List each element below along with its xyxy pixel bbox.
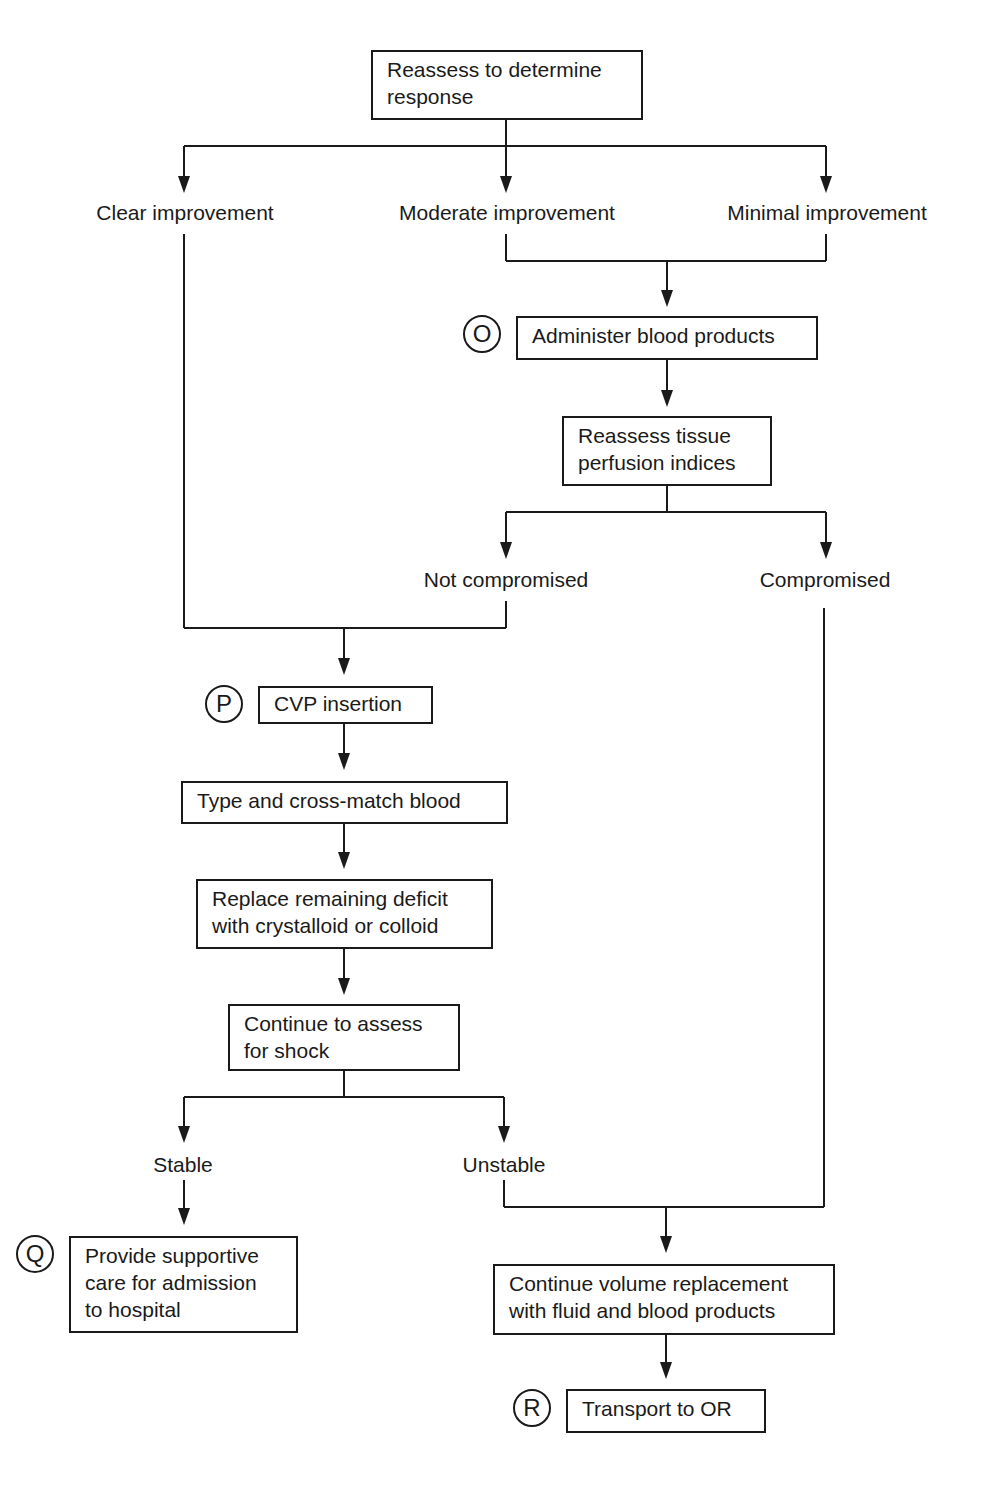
step-marker-r: R (513, 1389, 551, 1427)
node-text-line: Reassess tissue (578, 422, 756, 449)
node-replace-deficit: Replace remaining deficit with crystallo… (196, 879, 493, 949)
node-text: Transport to OR (582, 1395, 750, 1422)
branch-label-compromised: Compromised (760, 567, 891, 593)
node-text-line: to hospital (85, 1296, 282, 1323)
node-text-line: Continue volume replacement (509, 1270, 819, 1297)
branch-label-moderate-improvement: Moderate improvement (399, 200, 615, 226)
node-continue-volume-replacement: Continue volume replacement with fluid a… (493, 1264, 835, 1335)
node-text-line: with fluid and blood products (509, 1297, 819, 1324)
branch-label-unstable: Unstable (463, 1152, 546, 1178)
node-text-line: for shock (244, 1037, 444, 1064)
node-text-line: perfusion indices (578, 449, 756, 476)
node-text-line: Replace remaining deficit (212, 885, 477, 912)
node-cvp-insertion: CVP insertion (258, 686, 433, 724)
step-marker-p: P (205, 685, 243, 723)
node-reassess-perfusion: Reassess tissue perfusion indices (562, 416, 772, 486)
branch-label-minimal-improvement: Minimal improvement (727, 200, 927, 226)
node-text: Type and cross-match blood (197, 787, 492, 814)
branch-label-stable: Stable (153, 1152, 213, 1178)
node-text-line: care for admission (85, 1269, 282, 1296)
node-transport-to-or: Transport to OR (566, 1389, 766, 1433)
node-text: Administer blood products (532, 322, 802, 349)
node-supportive-care: Provide supportive care for admission to… (69, 1236, 298, 1333)
node-reassess-response: Reassess to determine response (371, 50, 643, 120)
step-marker-q: Q (16, 1235, 54, 1273)
node-text: CVP insertion (274, 690, 417, 717)
node-text-line: with crystalloid or colloid (212, 912, 477, 939)
step-marker-o: O (463, 315, 501, 353)
node-type-crossmatch: Type and cross-match blood (181, 781, 508, 824)
node-administer-blood-products: Administer blood products (516, 316, 818, 360)
branch-label-clear-improvement: Clear improvement (96, 200, 273, 226)
node-text-line: Reassess to determine (387, 56, 627, 83)
node-text-line: response (387, 83, 627, 110)
node-text-line: Continue to assess (244, 1010, 444, 1037)
branch-label-not-compromised: Not compromised (424, 567, 589, 593)
node-continue-assess-shock: Continue to assess for shock (228, 1004, 460, 1071)
node-text-line: Provide supportive (85, 1242, 282, 1269)
